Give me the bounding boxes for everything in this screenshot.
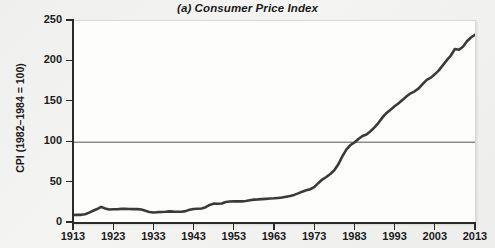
y-tick-label-0: 0 — [2, 216, 62, 227]
x-tick-1993 — [394, 223, 395, 230]
x-tick-label-2013: 2013 — [452, 231, 495, 242]
y-tick-50 — [66, 181, 73, 182]
cpi-line-plot — [73, 21, 475, 223]
x-tick-2003 — [434, 223, 435, 230]
chart-title: (a) Consumer Price Index — [0, 2, 495, 14]
x-tick-label-1963: 1963 — [251, 231, 297, 242]
x-tick-label-1953: 1953 — [211, 231, 257, 242]
x-tick-label-1923: 1923 — [90, 231, 136, 242]
x-tick-1953 — [233, 223, 234, 230]
y-tick-label-150: 150 — [2, 95, 62, 106]
y-tick-250 — [66, 19, 73, 20]
x-tick-1943 — [193, 223, 194, 230]
x-tick-1983 — [354, 223, 355, 230]
x-tick-1933 — [153, 223, 154, 230]
cpi-series-line — [73, 35, 475, 215]
x-tick-1913 — [72, 223, 73, 230]
y-tick-label-100: 100 — [2, 135, 62, 146]
y-tick-label-250: 250 — [2, 14, 62, 25]
x-tick-1973 — [314, 223, 315, 230]
y-tick-label-50: 50 — [2, 176, 62, 187]
x-tick-label-2003: 2003 — [412, 231, 458, 242]
x-tick-2013 — [474, 223, 475, 230]
x-tick-1963 — [273, 223, 274, 230]
plot-area — [73, 20, 476, 224]
x-tick-label-1973: 1973 — [291, 231, 337, 242]
x-tick-label-1913: 1913 — [50, 231, 96, 242]
x-tick-label-1983: 1983 — [331, 231, 377, 242]
x-tick-1923 — [113, 223, 114, 230]
y-tick-label-200: 200 — [2, 54, 62, 65]
y-axis-line — [72, 19, 74, 223]
chart-figure: (a) Consumer Price Index CPI (1982–1984 … — [0, 0, 495, 248]
y-tick-100 — [66, 141, 73, 142]
x-tick-label-1943: 1943 — [171, 231, 217, 242]
y-tick-200 — [66, 60, 73, 61]
x-tick-label-1993: 1993 — [372, 231, 418, 242]
x-tick-label-1933: 1933 — [130, 231, 176, 242]
y-tick-150 — [66, 100, 73, 101]
